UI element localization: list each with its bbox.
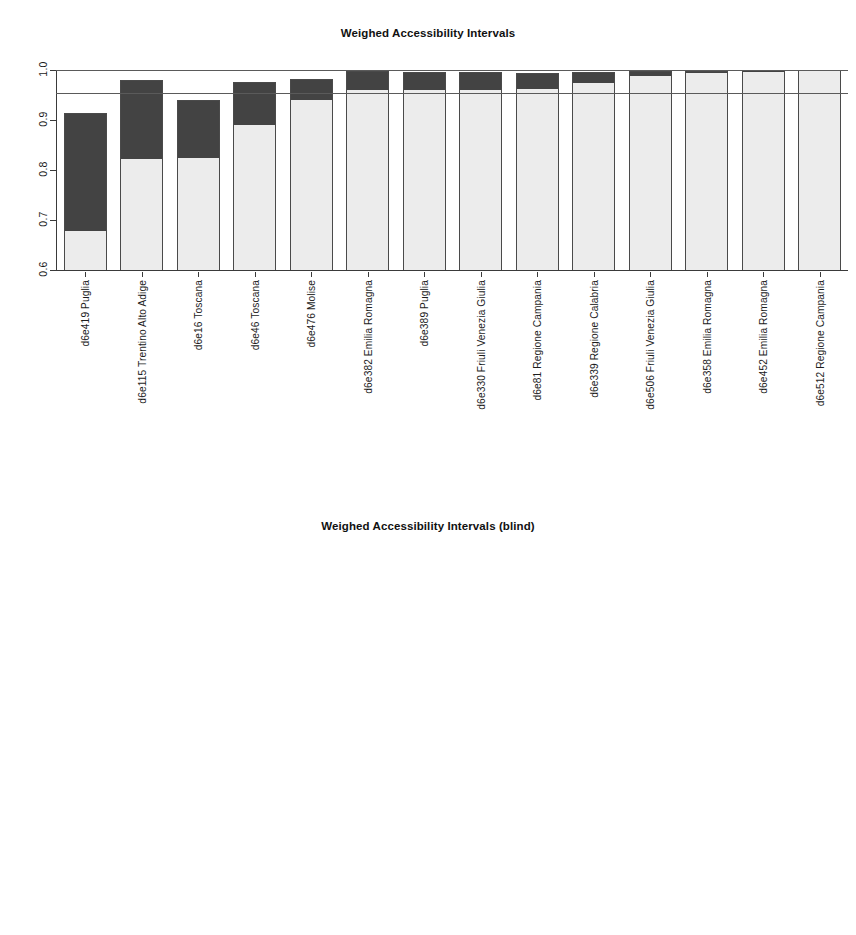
chart-1-title: Weighed Accessibility Intervals bbox=[0, 27, 856, 39]
chart-1-y-axis: 1.00.90.80.70.6 bbox=[0, 70, 46, 270]
bar bbox=[742, 70, 785, 270]
x-label-slot: d6e339 Regione Calabria bbox=[566, 272, 623, 462]
bar bbox=[346, 71, 389, 271]
bar-dark-segment bbox=[460, 73, 501, 90]
bar-dark-segment bbox=[65, 114, 106, 232]
bar bbox=[177, 100, 220, 271]
bar-dark-segment bbox=[347, 72, 388, 91]
y-tick-label: 0.9 bbox=[36, 111, 48, 127]
bar-slot bbox=[679, 70, 736, 270]
bar bbox=[120, 80, 163, 270]
x-tick-mark bbox=[594, 272, 595, 277]
bar-slot bbox=[566, 70, 623, 270]
bar-slot bbox=[340, 70, 397, 270]
y-tick-label: 0.6 bbox=[36, 261, 48, 277]
x-tick-label: d6e476 Molise bbox=[306, 280, 317, 348]
x-tick-mark bbox=[763, 272, 764, 277]
x-label-slot: d6e506 Friuli Venezia Giulia bbox=[622, 272, 679, 462]
x-label-slot: d6e452 Emilia Romagna bbox=[735, 272, 792, 462]
chart-1-plot-area bbox=[57, 70, 848, 270]
x-tick-mark bbox=[481, 272, 482, 277]
x-tick-label: d6e358 Emilia Romagna bbox=[701, 280, 712, 394]
x-tick-label: d6e389 Puglia bbox=[419, 280, 430, 346]
x-label-slot: d6e81 Regione Campania bbox=[509, 272, 566, 462]
bar-dark-segment bbox=[178, 101, 219, 158]
y-tick-label: 0.8 bbox=[36, 161, 48, 177]
bar bbox=[798, 70, 841, 270]
chart-weighed-accessibility-intervals-blind: Weighed Accessibility Intervals (blind) … bbox=[0, 498, 856, 935]
x-tick-mark bbox=[255, 272, 256, 277]
x-tick-label: d6e330 Friuli Venezia Giulia bbox=[475, 280, 486, 410]
bar bbox=[685, 71, 728, 271]
bar-dark-segment bbox=[517, 74, 558, 90]
x-label-slot: d6e476 Molise bbox=[283, 272, 340, 462]
bar-slot bbox=[227, 70, 284, 270]
bar bbox=[403, 72, 446, 270]
reference-line bbox=[56, 70, 848, 71]
chart-1-x-axis-labels: d6e419 Pugliad6e115 Trentino Alto Adiged… bbox=[57, 272, 848, 462]
bar-dark-segment bbox=[291, 80, 332, 100]
x-tick-mark bbox=[142, 272, 143, 277]
x-label-slot: d6e16 Toscana bbox=[170, 272, 227, 462]
bar-slot bbox=[283, 70, 340, 270]
x-tick-label: d6e382 Emilia Romagna bbox=[362, 280, 373, 394]
chart-1-plot: 1.00.90.80.70.6 bbox=[0, 70, 856, 270]
chart-weighed-accessibility-intervals: Weighed Accessibility Intervals 1.00.90.… bbox=[0, 0, 856, 470]
x-tick-mark bbox=[707, 272, 708, 277]
x-label-slot: d6e115 Trentino Alto Adige bbox=[114, 272, 171, 462]
bar-dark-segment bbox=[404, 73, 445, 90]
x-tick-mark bbox=[650, 272, 651, 277]
chart-1-bar-group bbox=[57, 70, 848, 270]
bar-dark-segment bbox=[630, 72, 671, 77]
x-tick-label: d6e452 Emilia Romagna bbox=[758, 280, 769, 394]
x-label-slot: d6e512 Regione Campania bbox=[792, 272, 849, 462]
bar bbox=[459, 72, 502, 270]
chart-1-x-axis-line bbox=[56, 270, 848, 271]
x-tick-mark bbox=[85, 272, 86, 277]
bar-slot bbox=[509, 70, 566, 270]
bar-dark-segment bbox=[234, 83, 275, 125]
chart-2-title: Weighed Accessibility Intervals (blind) bbox=[0, 520, 856, 532]
bar-slot bbox=[57, 70, 114, 270]
x-tick-label: d6e81 Regione Campania bbox=[532, 280, 543, 401]
x-tick-label: d6e419 Puglia bbox=[80, 280, 91, 346]
bar-slot bbox=[735, 70, 792, 270]
bar-dark-segment bbox=[686, 72, 727, 74]
x-tick-label: d6e46 Toscana bbox=[249, 280, 260, 350]
bar-slot bbox=[453, 70, 510, 270]
x-tick-mark bbox=[368, 272, 369, 277]
x-label-slot: d6e46 Toscana bbox=[227, 272, 284, 462]
bar bbox=[629, 71, 672, 271]
x-tick-label: d6e339 Regione Calabria bbox=[588, 280, 599, 398]
bar-slot bbox=[396, 70, 453, 270]
x-tick-label: d6e16 Toscana bbox=[193, 280, 204, 350]
x-label-slot: d6e419 Puglia bbox=[57, 272, 114, 462]
x-tick-label: d6e506 Friuli Venezia Giulia bbox=[645, 280, 656, 410]
x-label-slot: d6e330 Friuli Venezia Giulia bbox=[453, 272, 510, 462]
x-label-slot: d6e389 Puglia bbox=[396, 272, 453, 462]
x-label-slot: d6e382 Emilia Romagna bbox=[340, 272, 397, 462]
y-tick-label: 0.7 bbox=[36, 211, 48, 227]
bar-slot bbox=[170, 70, 227, 270]
reference-line bbox=[56, 93, 848, 94]
y-axis-line bbox=[56, 70, 57, 270]
x-tick-mark bbox=[820, 272, 821, 277]
bar-dark-segment bbox=[573, 73, 614, 83]
bar-slot bbox=[114, 70, 171, 270]
y-tick-label: 1.0 bbox=[36, 61, 48, 77]
x-tick-label: d6e512 Regione Campania bbox=[814, 280, 825, 406]
bar bbox=[64, 113, 107, 271]
x-tick-mark bbox=[198, 272, 199, 277]
x-tick-mark bbox=[537, 272, 538, 277]
x-tick-mark bbox=[424, 272, 425, 277]
bar bbox=[290, 79, 333, 271]
x-label-slot: d6e358 Emilia Romagna bbox=[679, 272, 736, 462]
bar bbox=[516, 73, 559, 271]
bar bbox=[233, 82, 276, 271]
bar-slot bbox=[792, 70, 849, 270]
bar-slot bbox=[622, 70, 679, 270]
x-tick-mark bbox=[311, 272, 312, 277]
bar bbox=[572, 72, 615, 270]
x-tick-label: d6e115 Trentino Alto Adige bbox=[136, 280, 147, 404]
